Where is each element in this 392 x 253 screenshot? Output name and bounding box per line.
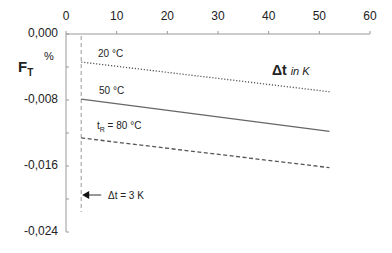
delta-t-annotation: Δt = 3 K	[108, 190, 144, 201]
y-tick-label: -0,008	[2, 92, 58, 106]
arrow-left-icon	[82, 191, 89, 199]
x-axis-label: Δt in K	[272, 62, 310, 78]
x-tick-label: 60	[363, 9, 376, 23]
y-axis-unit: %	[44, 50, 54, 62]
y-tick-label: 0,000	[2, 26, 58, 40]
x-tick-label: 10	[110, 9, 123, 23]
series-line-2	[81, 138, 329, 168]
x-tick-label: 20	[161, 9, 174, 23]
x-tick-label: 0	[63, 9, 70, 23]
series-label-50c: 50 °C	[99, 85, 124, 96]
x-tick-label: 40	[262, 9, 275, 23]
x-tick-label: 30	[211, 9, 224, 23]
plot-area	[0, 0, 392, 253]
series-label-80c: tR = 80 °C	[97, 120, 141, 133]
y-axis-label: FT	[18, 58, 33, 78]
chart: 0102030405060 0,000-0,008-0,016-0,024 FT…	[0, 0, 392, 253]
x-tick-label: 50	[313, 9, 326, 23]
y-tick-label: -0,016	[2, 158, 58, 172]
y-tick-label: -0,024	[2, 224, 58, 238]
series-label-20c: 20 °C	[98, 48, 123, 59]
